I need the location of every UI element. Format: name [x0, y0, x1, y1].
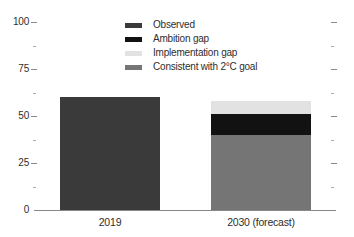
bar-segment-implementation-gap	[211, 101, 311, 114]
x-axis-line	[34, 210, 336, 211]
y-axis-minor-tick-left	[33, 140, 36, 141]
y-axis-minor-tick-right	[331, 93, 334, 94]
stacked-bar-chart: 025507510020192030 (forecast) ObservedAm…	[0, 0, 354, 237]
x-axis-category-label: 2019	[50, 216, 170, 228]
legend-label: Observed	[153, 20, 195, 30]
y-axis-tick-label: 100	[0, 17, 29, 27]
legend-swatch-ambition-gap	[125, 37, 142, 42]
y-axis-major-tick-left	[31, 116, 37, 117]
y-axis-minor-tick-right	[331, 46, 334, 47]
legend-swatch-consistent-with-2-c-goal	[125, 65, 142, 70]
legend-label: Implementation gap	[153, 48, 237, 58]
legend: ObservedAmbition gapImplementation gapCo…	[125, 18, 257, 74]
y-axis-major-tick-right	[331, 163, 337, 164]
legend-swatch-implementation-gap	[125, 51, 142, 56]
y-axis-major-tick-right	[331, 116, 337, 117]
y-axis-major-tick-left	[31, 69, 37, 70]
bar-segment-observed	[60, 97, 160, 210]
legend-label: Ambition gap	[153, 34, 209, 44]
legend-item-ambition-gap: Ambition gap	[125, 32, 257, 46]
y-axis-minor-tick-left	[33, 46, 36, 47]
legend-swatch-observed	[125, 23, 142, 28]
y-axis-minor-tick-left	[33, 93, 36, 94]
legend-item-observed: Observed	[125, 18, 257, 32]
y-axis-major-tick-right	[331, 22, 337, 23]
y-axis-tick-label: 0	[0, 205, 29, 215]
y-axis-major-tick-left	[31, 163, 37, 164]
y-axis-tick-label: 25	[0, 158, 29, 168]
bar-segment-consistent-with-2-c-goal	[211, 135, 311, 210]
x-axis-category-label: 2030 (forecast)	[201, 216, 321, 228]
legend-item-consistent-with-2-c-goal: Consistent with 2°C goal	[125, 60, 257, 74]
y-axis-tick-label: 50	[0, 111, 29, 121]
y-axis-tick-label: 75	[0, 64, 29, 74]
y-axis-minor-tick-right	[331, 140, 334, 141]
legend-item-implementation-gap: Implementation gap	[125, 46, 257, 60]
y-axis-minor-tick-right	[331, 187, 334, 188]
bar-segment-ambition-gap	[211, 114, 311, 135]
legend-label: Consistent with 2°C goal	[153, 62, 257, 72]
y-axis-major-tick-left	[31, 22, 37, 23]
y-axis-minor-tick-left	[33, 187, 36, 188]
y-axis-major-tick-right	[331, 69, 337, 70]
